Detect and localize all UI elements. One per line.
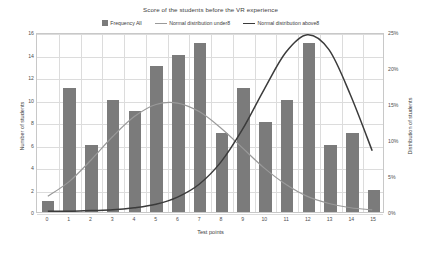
chart-title: Score of the students before the VR expe… — [0, 6, 421, 13]
y-axis-left-tick: 2 — [8, 188, 34, 194]
x-axis-tick: 8 — [213, 216, 229, 222]
x-axis-tick: 15 — [365, 216, 381, 222]
x-axis-tick: 12 — [300, 216, 316, 222]
y-axis-left-label: Number of students — [19, 66, 25, 186]
x-axis-tick: 5 — [148, 216, 164, 222]
y-axis-left-tick: 16 — [8, 30, 34, 36]
y-axis-right-tick: 0% — [388, 210, 418, 216]
x-axis-tick: 2 — [82, 216, 98, 222]
chart-legend: Frequency All Normal distribution under8… — [0, 20, 421, 26]
legend-label: Normal distribution above8 — [258, 20, 320, 26]
line-series — [37, 34, 383, 212]
x-axis-tick: 11 — [278, 216, 294, 222]
gridline-horizontal — [37, 214, 383, 215]
x-axis-tick: 0 — [39, 216, 55, 222]
y-axis-right-tick: 10% — [388, 138, 418, 144]
legend-item-normal-above8[interactable]: Normal distribution above8 — [243, 20, 319, 26]
x-axis-tick: 4 — [126, 216, 142, 222]
legend-item-normal-under8[interactable]: Normal distribution under8 — [155, 20, 230, 26]
legend-swatch-icon — [102, 20, 108, 26]
y-axis-left-tick: 0 — [8, 210, 34, 216]
x-axis-tick: 3 — [104, 216, 120, 222]
y-axis-left-tick: 14 — [8, 53, 34, 59]
legend-line-icon — [243, 23, 255, 24]
legend-item-frequency[interactable]: Frequency All — [102, 20, 142, 26]
plot-area — [36, 33, 384, 213]
legend-label: Frequency All — [110, 20, 141, 26]
x-axis-tick: 13 — [322, 216, 338, 222]
y-axis-right-tick: 5% — [388, 174, 418, 180]
x-axis-tick: 14 — [343, 216, 359, 222]
curve-normal-under8 — [48, 102, 372, 209]
x-axis-label: Test points — [0, 229, 421, 235]
x-axis-tick: 9 — [235, 216, 251, 222]
x-axis-tick: 1 — [61, 216, 77, 222]
y-axis-right-tick: 15% — [388, 102, 418, 108]
legend-label: Normal distribution under8 — [169, 20, 230, 26]
x-axis-tick: 6 — [169, 216, 185, 222]
y-axis-right-tick: 20% — [388, 66, 418, 72]
y-axis-right-tick: 25% — [388, 30, 418, 36]
y-axis-right-label: Distribution of students — [407, 66, 413, 186]
chart-container: Score of the students before the VR expe… — [0, 0, 421, 255]
curve-normal-above8 — [48, 35, 372, 212]
x-axis-tick: 10 — [256, 216, 272, 222]
x-axis-tick: 7 — [191, 216, 207, 222]
legend-line-icon — [155, 23, 167, 24]
